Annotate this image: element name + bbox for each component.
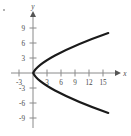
y-axis-label: y bbox=[30, 2, 35, 11]
y-tick-label--3: -3 bbox=[19, 85, 25, 93]
x-tick-label-12: 12 bbox=[85, 79, 93, 87]
y-axis-arrow-icon bbox=[30, 11, 36, 17]
y-tick-label-9: 9 bbox=[21, 25, 25, 33]
x-axis-arrow-icon bbox=[115, 70, 121, 76]
y-tick-label-6: 6 bbox=[21, 40, 25, 48]
x-tick-label-9: 9 bbox=[73, 79, 77, 87]
y-tick-label--9: -9 bbox=[19, 115, 25, 123]
y-tick-label-3: 3 bbox=[21, 55, 25, 63]
y-tick-label--6: -6 bbox=[19, 100, 25, 108]
x-tick-label-15: 15 bbox=[99, 79, 107, 87]
x-tick-label-6: 6 bbox=[59, 79, 63, 87]
parabola-figure: -3 3 6 9 12 15 9 6 3 -3 -6 -9 x y bbox=[0, 0, 131, 136]
parabola-plot: -3 3 6 9 12 15 9 6 3 -3 -6 -9 x y bbox=[0, 0, 131, 136]
x-axis-label: x bbox=[122, 69, 127, 78]
